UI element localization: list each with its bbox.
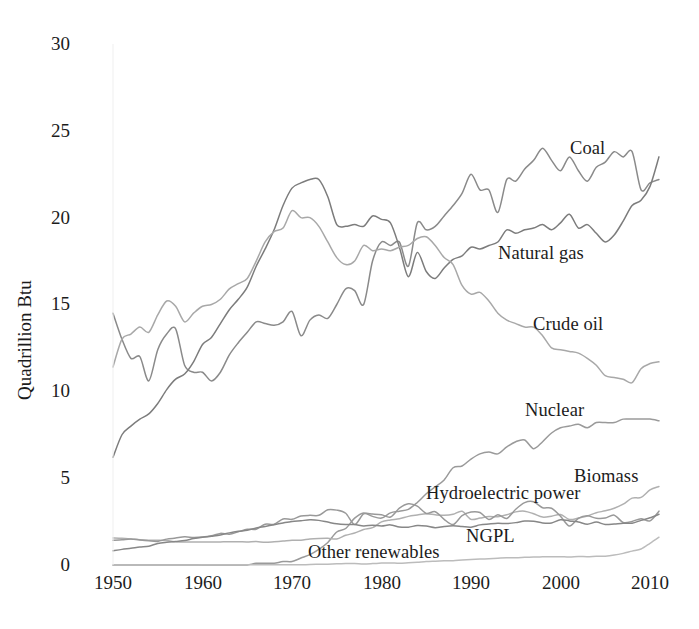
series-label-crude-oil: Crude oil — [533, 314, 603, 335]
series-label-coal: Coal — [570, 138, 605, 159]
x-tick-label-2010: 2010 — [610, 572, 690, 594]
x-tick-label-2000: 2000 — [521, 572, 601, 594]
y-tick-label-20: 20 — [26, 207, 70, 229]
y-tick-label-30: 30 — [26, 33, 70, 55]
y-tick-label-5: 5 — [26, 467, 70, 489]
series-label-other-renewables: Other renewables — [308, 542, 440, 563]
series-label-hydroelectric-power: Hydroelectric power — [426, 483, 580, 504]
x-tick-label-1950: 1950 — [73, 572, 153, 594]
x-tick-label-1990: 1990 — [431, 572, 511, 594]
series-label-biomass: Biomass — [574, 466, 638, 487]
x-tick-label-1960: 1960 — [163, 572, 243, 594]
series-label-natural-gas: Natural gas — [498, 243, 584, 264]
y-axis-title: Quadrillion Btu — [14, 280, 36, 400]
series-line-crude-oil — [113, 211, 659, 383]
series-line-coal — [113, 148, 659, 381]
x-tick-label-1980: 1980 — [342, 572, 422, 594]
y-tick-label-25: 25 — [26, 120, 70, 142]
series-label-ngpl: NGPL — [466, 526, 515, 547]
y-tick-label-0: 0 — [26, 554, 70, 576]
x-tick-label-1970: 1970 — [252, 572, 332, 594]
chart-figure: 30 25 20 15 10 5 0 1950 1960 1970 1980 1… — [0, 0, 699, 629]
series-label-nuclear: Nuclear — [525, 400, 584, 421]
